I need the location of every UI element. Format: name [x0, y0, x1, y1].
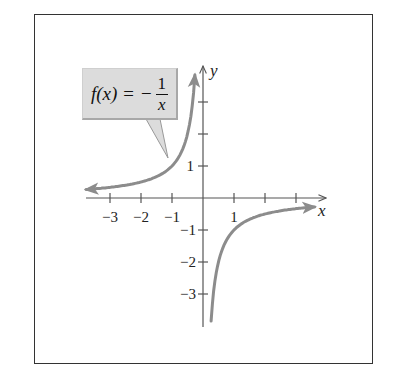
- y-tick-label: −1: [180, 222, 196, 238]
- function-callout: f(x) = − 1 x: [82, 68, 178, 120]
- y-axis-label: y: [208, 61, 218, 80]
- y-tick-label: 1: [187, 158, 195, 174]
- curve-right-branch: [211, 207, 315, 321]
- x-tick-label: −1: [164, 209, 180, 225]
- y-tick-label: −3: [180, 286, 196, 302]
- equation-fraction: 1 x: [156, 75, 169, 113]
- x-axis-label: x: [317, 201, 326, 220]
- graph-plot: −3 −2 −1 1 1 −1 −2 −3 x y: [0, 0, 398, 379]
- fraction-numerator: 1: [156, 75, 169, 95]
- equation-lhs: f(x) = −: [91, 83, 153, 105]
- function-equation: f(x) = − 1 x: [91, 75, 168, 113]
- x-tick-label: −3: [102, 209, 118, 225]
- fraction-denominator: x: [158, 95, 166, 113]
- y-tick-label: −2: [180, 254, 196, 270]
- callout-pointer: [146, 119, 168, 158]
- x-tick-label: −2: [133, 209, 149, 225]
- x-tick-label: 1: [230, 209, 238, 225]
